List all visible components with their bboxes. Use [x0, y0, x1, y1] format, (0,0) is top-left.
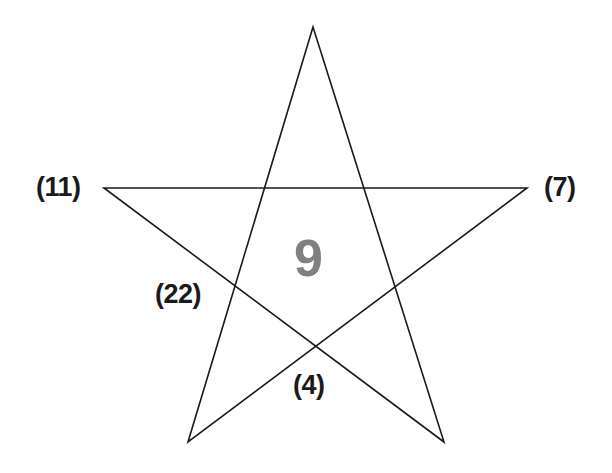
- label-right-point: (7): [544, 174, 576, 201]
- pentagram-figure: (11) (7) (22) (4) 9: [0, 0, 612, 473]
- label-left-point: (11): [36, 174, 81, 201]
- label-bottom-center: (4): [293, 372, 325, 399]
- center-value: 9: [294, 232, 323, 284]
- label-lower-left-inner: (22): [155, 281, 201, 308]
